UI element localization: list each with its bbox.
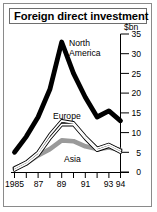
annotation-north-america-line2: America	[69, 49, 101, 58]
y-tick-label-20: 20	[126, 88, 141, 98]
y-tick-label-25: 25	[126, 69, 141, 79]
y-tick-label-15: 15	[126, 108, 141, 118]
y-tick-label-0: 0	[126, 167, 141, 177]
page-title: Foreign direct investment	[14, 10, 148, 22]
x-tick-label-94: 94	[113, 179, 128, 189]
annotation-asia: Asia	[64, 155, 81, 164]
y-tick-label-10: 10	[126, 128, 141, 138]
x-tick-label-87: 87	[31, 179, 46, 189]
chart-panel: Foreign direct investment	[3, 3, 152, 207]
y-tick-label-5: 5	[126, 148, 141, 158]
series-north-america-line	[15, 42, 121, 152]
y-tick-label-30: 30	[126, 49, 141, 59]
annotation-europe: Europe	[53, 112, 81, 121]
y-tick-label-35: 35	[126, 29, 141, 39]
x-tick-label-1985: 1985	[4, 179, 25, 189]
plot-area: $bn 35 30 25 20 15 10 5 0 1985 87 89 91 …	[9, 26, 147, 193]
x-axis-ticks	[15, 173, 121, 179]
x-tick-label-91: 91	[78, 179, 93, 189]
x-tick-label-89: 89	[54, 179, 69, 189]
annotation-north-america-line1: North	[69, 39, 90, 48]
